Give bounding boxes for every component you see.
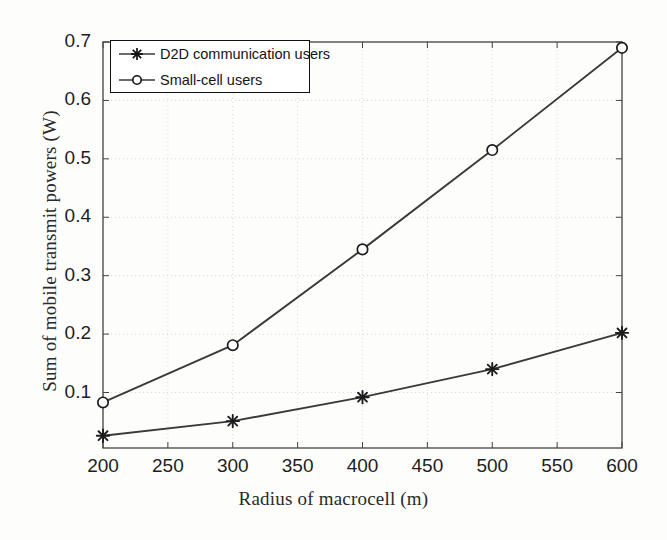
star-marker-icon [117, 44, 157, 64]
chart-legend: D2D communication users Small-cell users [110, 40, 310, 93]
legend-item-small-cell: Small-cell users [111, 67, 309, 93]
x-axis-title: Radius of macrocell (m) [0, 488, 667, 510]
legend-label-d2d: D2D communication users [160, 46, 330, 62]
chart-figure: 0.10.20.30.40.50.60.7 200250300350400450… [0, 0, 667, 540]
x-tick-label: 600 [582, 455, 662, 477]
y-axis-title: Sum of mobile transmit powers (W) [39, 41, 61, 461]
legend-label-small-cell: Small-cell users [160, 72, 262, 88]
circle-marker-icon [117, 70, 157, 90]
legend-item-d2d: D2D communication users [111, 41, 309, 67]
